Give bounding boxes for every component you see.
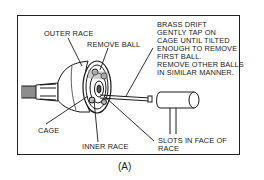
label-outer-race: OUTER RACE (44, 30, 93, 38)
label-slots: SLOTS IN FACE OF RACE (158, 137, 227, 153)
figure-caption: (A) (118, 161, 131, 172)
label-cage: CAGE (38, 127, 59, 135)
cv-joint-diagram: OUTER RACE REMOVE BALL BRASS DRIFT GENTL… (0, 0, 264, 180)
label-inner-race: INNER RACE (82, 143, 129, 151)
hammer (157, 92, 199, 134)
label-brass-drift-note: BRASS DRIFT GENTLY TAP ON CAGE UNTIL TIL… (157, 21, 244, 77)
splined-shaft (22, 83, 58, 101)
label-remove-ball: REMOVE BALL (87, 41, 140, 49)
